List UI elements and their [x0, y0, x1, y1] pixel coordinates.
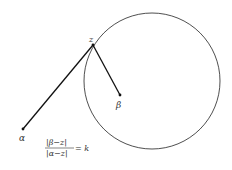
point-z — [92, 44, 95, 47]
segment-alpha-z — [23, 45, 93, 129]
label-alpha: α — [19, 133, 25, 143]
apollonius-circle — [84, 13, 220, 149]
apollonius-circle-diagram: z β α |β−z| |α−z| = k — [0, 0, 232, 170]
segment-z-beta — [93, 45, 120, 95]
ratio-formula: |β−z| |α−z| = k — [45, 138, 89, 158]
point-alpha — [22, 128, 25, 131]
formula-numerator: |β−z| — [46, 138, 67, 147]
formula-denominator: |α−z| — [46, 149, 68, 158]
point-beta — [119, 94, 122, 97]
label-beta: β — [115, 100, 121, 110]
formula-rhs: = k — [75, 144, 89, 153]
label-z: z — [88, 35, 94, 44]
